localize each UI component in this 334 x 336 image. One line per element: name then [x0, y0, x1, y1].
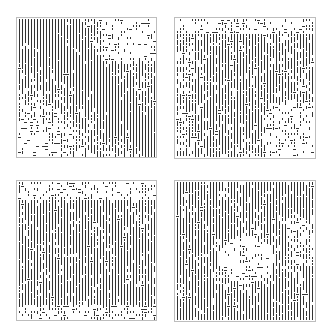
texture-canvas — [18, 182, 157, 321]
texture-panel-bottom-right — [174, 180, 316, 322]
texture-panel-bottom-left — [16, 180, 157, 321]
texture-canvas — [176, 182, 316, 322]
texture-canvas — [176, 19, 316, 159]
texture-panel-top-left — [16, 17, 157, 158]
texture-canvas — [18, 19, 157, 158]
texture-panel-top-right — [174, 17, 316, 159]
